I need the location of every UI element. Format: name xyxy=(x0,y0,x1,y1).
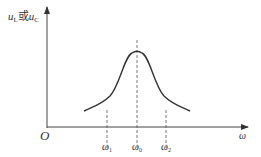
x-axis-label: ω xyxy=(239,130,246,141)
marker-label-omega1: ω1 xyxy=(102,141,112,153)
marker-label-omega2: ω2 xyxy=(161,141,171,153)
y-axis-label: uL或uC xyxy=(8,10,39,24)
resonance-diagram: uL或uC O ω ω1 ω0 ω2 xyxy=(0,0,261,157)
marker-label-omega0: ω0 xyxy=(132,141,142,153)
origin-label: O xyxy=(40,128,50,143)
